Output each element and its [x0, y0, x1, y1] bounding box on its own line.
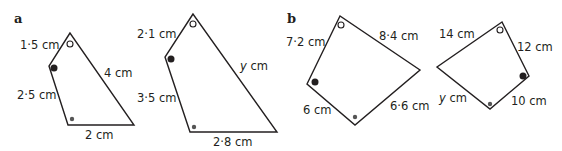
filled-angle-marker-icon [312, 79, 319, 86]
quadrilateral-b1: 7·2 cm 8·4 cm 6 cm 6·6 cm [286, 16, 429, 125]
side-label: 6·6 cm [390, 99, 429, 113]
small-angle-marker-icon [488, 102, 492, 106]
quadrilateral-b2: 14 cm 12 cm y cm 10 cm [437, 22, 553, 109]
side-label: 7·2 cm [286, 35, 325, 49]
side-label: 14 cm [439, 27, 475, 41]
part-a-label: a [14, 11, 23, 26]
filled-angle-marker-icon [168, 56, 175, 63]
filled-angle-marker-icon [51, 65, 58, 72]
side-label: 1·5 cm [20, 38, 59, 52]
small-angle-marker-icon [70, 117, 74, 121]
side-label: 10 cm [511, 94, 547, 108]
open-angle-marker-icon [67, 41, 73, 47]
small-angle-marker-icon [192, 125, 196, 129]
side-label: 6 cm [303, 103, 332, 117]
side-label: 8·4 cm [379, 29, 418, 43]
quadrilateral-a1: 1·5 cm 2·5 cm 2 cm 4 cm [17, 33, 134, 142]
quadrilateral-a2: 2·1 cm 3·5 cm 2·8 cm y cm [137, 14, 277, 149]
side-label: y cm [239, 59, 268, 73]
side-label: 2·1 cm [137, 27, 176, 41]
side-label: y cm [438, 91, 467, 105]
quadrilateral-a2-outline [165, 14, 277, 132]
side-label: 2·8 cm [213, 135, 252, 149]
open-angle-marker-icon [190, 21, 196, 27]
side-label: 2 cm [85, 128, 114, 142]
part-b-label: b [287, 11, 296, 26]
side-label: 12 cm [517, 40, 553, 54]
open-angle-marker-icon [497, 27, 503, 33]
open-angle-marker-icon [338, 22, 344, 28]
small-angle-marker-icon [353, 115, 357, 119]
side-label: 3·5 cm [137, 91, 176, 105]
side-label: 2·5 cm [17, 88, 56, 102]
side-label: 4 cm [104, 66, 133, 80]
filled-angle-marker-icon [520, 73, 527, 80]
similar-quadrilaterals-diagram: a 1·5 cm 2·5 cm 2 cm 4 cm 2·1 cm 3·5 cm … [0, 0, 562, 151]
